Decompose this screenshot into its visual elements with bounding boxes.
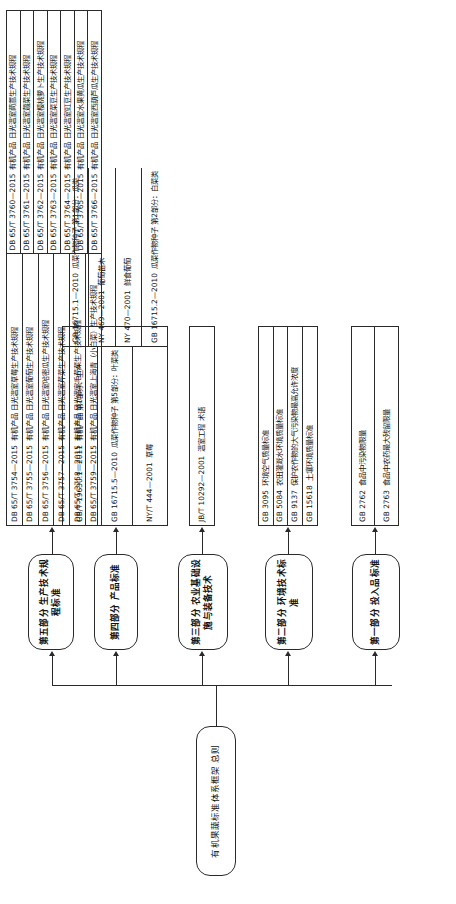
list-item: JB/T 10292—2001 温室工程 术语 (190, 327, 214, 525)
standard-code: GB 3095 (261, 490, 271, 522)
standard-name: 保护农作物的大气污染物最高允许浓度 (290, 367, 300, 486)
connector-spine-vertical (52, 685, 392, 686)
standard-name: 土壤环境质量标准 (305, 425, 315, 481)
arrow-part3 (199, 651, 205, 656)
list-item: GB 3095 环境空气质量标准 (259, 327, 274, 525)
arrow-part2-leaves (285, 527, 291, 532)
list-item: DB 65/T 3755—2015 有机产品 日光温室葡萄生产技术规程 (23, 255, 39, 526)
standard-name: 瓜菜作物种子 第2部分：白菜类 (150, 171, 160, 269)
part3-node: 第三部分 农业基础设施与装备技术 (178, 554, 228, 650)
part5-node: 第五部分 生产技术规程标准 (28, 554, 74, 650)
list-item: GB 9137 保护农作物的大气污染物最高允许浓度 (288, 327, 303, 525)
standard-name: 有机产品 日光温室上海青（小白菜）生产技术规程 (89, 285, 99, 441)
part4-label: 第四部分 产品标准 (110, 564, 122, 641)
part1-label: 第一部分 投入品标准 (370, 559, 382, 645)
root-label: 有机果蔬标准体系框架 总则 (210, 744, 221, 857)
part5-label: 第五部分 生产技术规程标准 (39, 559, 62, 645)
part4-node: 第四部分 产品标准 (94, 554, 138, 650)
root-node: 有机果蔬标准体系框架 总则 (196, 726, 236, 876)
arrow-part4 (113, 651, 119, 656)
standard-code: DB 65/T 3766—2015 (90, 174, 100, 251)
standard-code: GB 9137 (290, 490, 300, 522)
list-item: DB 65/T 3754—2015 有机产品 日光温室草莓生产技术规程 (7, 255, 23, 526)
standard-name: 有机产品 日光温室蕸菜生产技术规程 (22, 55, 32, 169)
part3-leaf-list: JB/T 10292—2001 温室工程 术语 (189, 326, 215, 526)
standard-name: 有机产品 日光温室葡萄生产技术规程 (25, 327, 35, 441)
connector-to-part3 (202, 656, 203, 686)
standard-code: DB 65/T 3759—2015 (89, 445, 99, 522)
standard-code: DB 65/T 3760—2015 (8, 174, 18, 251)
list-item: GB 5084 农田灌溉水环境质量标准 (274, 327, 289, 525)
part1-leaf-list: GB 2762 食品中污染物限量 GB 2763 食品中农药最大残留限量 (351, 326, 399, 526)
list-item: GB 2763 食品中农药最大残留限量 (375, 327, 398, 525)
standard-code: NY/T 444—2001 (145, 462, 155, 522)
list-item: DB 65/T 3764—2015 有机产品 日光温室豇豆生产技术规程 (61, 11, 75, 254)
list-item: GB 16715.5—2010 瓜菜作物种子 第5部分：叶菜类 (98, 347, 133, 525)
standard-code: GB 2763 (382, 490, 392, 522)
standard-name: 农田灌溉水环境质量标准 (275, 409, 285, 486)
connector-part3-leaves (202, 532, 203, 554)
standard-code: DB 65/T 3764—2015 (63, 174, 73, 251)
part5-stack-right: DB 65/T 3760—2015 有机产品 日光温室茼蒿生产技术规程 DB 6… (7, 11, 101, 255)
list-item: DB 65/T 3763—2015 有机产品 日光温室菜豆生产技术规程 (48, 11, 62, 254)
standard-name: 有机产品 日光温室水果黄瓜生产技术规程 (76, 41, 86, 169)
connector-part1-leaves (375, 532, 376, 554)
standard-name: 有机产品 日光温室樱桃萝卜生产技术规程 (36, 41, 46, 169)
list-item: DB 65/T 3761—2015 有机产品 日光温室蕸菜生产技术规程 (21, 11, 35, 254)
standard-name: 有机产品 日光温室芹菜生产技术规程 (57, 327, 67, 441)
list-item: GB 16715.2—2010 瓜菜作物种子 第2部分：白菜类 (142, 168, 167, 346)
standard-name: 温室工程 术语 (197, 407, 207, 451)
standard-code: JB/T 10292—2001 (197, 456, 207, 522)
standard-code: DB 65/T 3756—2015 (41, 445, 51, 522)
standard-code: DB 65/T 3757—2015 (57, 445, 67, 522)
list-item: DB 65/T 3762—2015 有机产品 日光温室樱桃萝卜生产技术规程 (34, 11, 48, 254)
standard-code: GB 5084 (275, 490, 285, 522)
connector-to-part5 (52, 656, 53, 686)
standard-name: 食品中农药最大残留限量 (382, 409, 392, 486)
standard-name: 有机产品 日光温室西葫芦瓜生产技术规程 (90, 41, 100, 169)
standard-code: DB 65/T 3761—2015 (22, 174, 32, 251)
connector-part2-leaves (288, 532, 289, 554)
list-item: DB 65/T 3759—2015 有机产品 日光温室上海青（小白菜）生产技术规… (86, 255, 101, 526)
standard-code: DB 65/T 3762—2015 (36, 174, 46, 251)
standard-name: 食品中污染物限量 (358, 430, 368, 486)
standard-name: 有机产品 日光温室毛芹菜生产技术规程 (73, 320, 83, 441)
diagram-stage: 有机果蔬标准体系框架 总则 第一部分 投入品标准 GB 2762 食品中污染物限… (0, 0, 456, 904)
part2-node: 第二部分 环境技术标准 (265, 554, 313, 650)
standard-code: DB 65/T 3763—2015 (49, 174, 59, 251)
list-item: DB 65/T 3765—2015 有机产品 日光温室水果黄瓜生产技术规程 (75, 11, 89, 254)
diagram-canvas: 有机果蔬标准体系框架 总则 第一部分 投入品标准 GB 2762 食品中污染物限… (0, 0, 456, 904)
arrow-part5-leaves (49, 527, 55, 532)
arrow-part5 (49, 651, 55, 656)
standard-code: DB 65/T 3765—2015 (76, 174, 86, 251)
arrow-part4-leaves (113, 527, 119, 532)
part1-node: 第一部分 投入品标准 (352, 554, 400, 650)
standard-code: GB 16715.5—2010 (110, 452, 120, 522)
standard-name: 有机产品 日光温室茼蒿生产技术规程 (8, 55, 18, 169)
part2-label: 第二部分 环境技术标准 (277, 559, 300, 645)
standard-name: 瓜菜作物种子 第5部分：叶菜类 (110, 350, 120, 448)
arrow-part1-leaves (372, 527, 378, 532)
part5-stack-left: DB 65/T 3754—2015 有机产品 日光温室草莓生产技术规程 DB 6… (7, 255, 101, 526)
list-item: GB 15618 土壤环境质量标准 (303, 327, 318, 525)
standard-code: DB 65/T 3755—2015 (25, 445, 35, 522)
connector-part5-leaves (52, 532, 53, 554)
standard-name: 环境空气质量标准 (261, 430, 271, 486)
list-item: DB 65/T 3756—2015 有机产品 日光温室哈密瓜生产技术规程 (39, 255, 55, 526)
standard-code: NY 470—2001 (123, 290, 133, 343)
standard-name: 鲜食葡萄 (123, 258, 133, 286)
list-item: DB 65/T 3760—2015 有机产品 日光温室茼蒿生产技术规程 (7, 11, 21, 254)
part2-leaf-list: GB 3095 环境空气质量标准 GB 5084 农田灌溉水环境质量标准 GB … (258, 326, 318, 526)
standard-name: 有机产品 日光温室哈密瓜生产技术规程 (41, 320, 51, 441)
connector-to-part1 (375, 656, 376, 686)
standard-code: GB 2762 (358, 490, 368, 522)
standard-name: 草莓 (145, 444, 155, 458)
arrow-part3-leaves (199, 527, 205, 532)
connector-root-spine (216, 686, 217, 726)
list-item: DB 65/T 3766—2015 有机产品 日光温室西葫芦瓜生产技术规程 (88, 11, 101, 254)
arrow-part1 (372, 651, 378, 656)
arrow-part2 (285, 651, 291, 656)
standard-name: 有机产品 日光温室草莓生产技术规程 (10, 327, 20, 441)
part3-label: 第三部分 农业基础设施与装备技术 (191, 559, 214, 645)
part5-leaf-list: DB 65/T 3754—2015 有机产品 日光温室草莓生产技术规程 DB 6… (6, 10, 102, 526)
